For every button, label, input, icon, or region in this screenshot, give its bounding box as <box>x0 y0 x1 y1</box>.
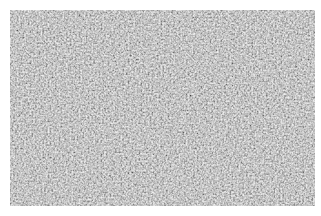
texture-image <box>10 10 315 206</box>
texture-surface <box>10 10 315 206</box>
